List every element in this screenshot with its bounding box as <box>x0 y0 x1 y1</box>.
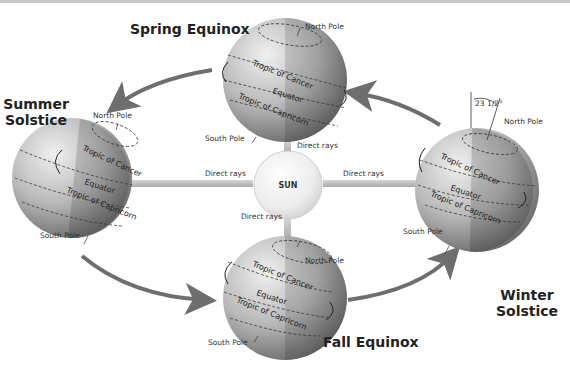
orbit-arrow-fall-to-winter <box>348 255 452 300</box>
tilt-angle-label: 23 1/2° <box>475 99 503 108</box>
winter-north-pole: North Pole <box>504 117 543 126</box>
ray-label-right: Direct rays <box>343 169 384 178</box>
title-winter-line2: Solstice <box>496 303 558 319</box>
title-spring-equinox: Spring Equinox <box>130 21 250 37</box>
fall-north-pole: North Pole <box>305 256 344 265</box>
ray-label-bottom: Direct rays <box>241 212 282 221</box>
ray-label-left: Direct rays <box>205 169 246 178</box>
title-summer-line2: Solstice <box>5 112 67 128</box>
ray-right <box>323 180 420 187</box>
ray-left <box>127 180 253 187</box>
spring-north-pole: North Pole <box>305 22 344 31</box>
summer-south-pole: South Pole <box>40 231 80 240</box>
title-fall-equinox: Fall Equinox <box>323 334 419 350</box>
title-summer-line1: Summer <box>3 96 69 112</box>
globe-summer-solstice: Tropic of Cancer Equator Tropic of Capri… <box>12 116 144 244</box>
ray-label-top: Direct rays <box>297 141 338 150</box>
title-winter-line1: Winter <box>500 287 553 303</box>
seasons-diagram: SUN Direct rays Direct rays Direct rays … <box>0 0 570 367</box>
winter-south-pole: South Pole <box>403 227 443 236</box>
orbit-arrow-spring-to-summer <box>116 70 212 106</box>
fall-south-pole: South Pole <box>208 338 248 347</box>
orbit-arrow-summer-to-fall <box>82 256 205 300</box>
orbit-arrow-winter-to-spring <box>355 93 440 125</box>
summer-north-pole: North Pole <box>93 111 132 120</box>
spring-south-pole: South Pole <box>205 134 245 143</box>
sun-label: SUN <box>279 181 298 190</box>
sun: SUN <box>254 151 322 219</box>
